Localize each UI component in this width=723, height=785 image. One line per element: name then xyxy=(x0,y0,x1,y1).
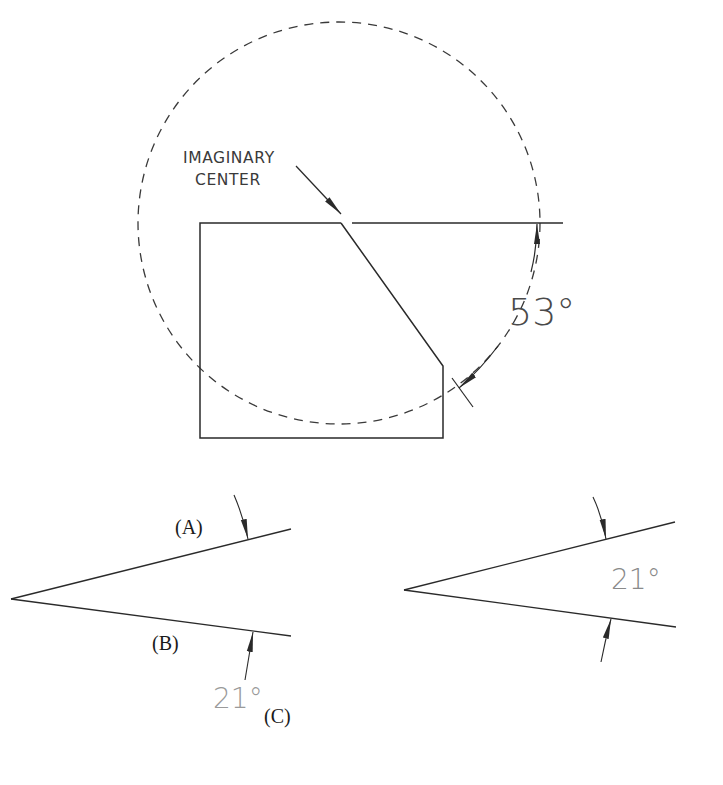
dimension-arrow-lower-right xyxy=(601,619,611,662)
label-c: (C) xyxy=(264,705,291,728)
diagram-canvas: IMAGINARY CENTER 53° (A) (B) 21° (C) 21° xyxy=(0,0,723,785)
leader-arrow-imaginary-center xyxy=(296,166,341,214)
bottom-left-figure: (A) (B) 21° (C) xyxy=(11,495,291,728)
angle-label-53: 53° xyxy=(508,290,575,334)
imaginary-label-line1: IMAGINARY xyxy=(183,149,275,167)
angle-label-21-right: 21° xyxy=(611,563,661,596)
top-figure: IMAGINARY CENTER 53° xyxy=(138,22,575,438)
bottom-right-figure: 21° xyxy=(404,497,676,662)
label-a: (A) xyxy=(175,516,203,539)
dimension-arc-upper xyxy=(531,224,537,272)
part-outline xyxy=(200,223,443,438)
angle-line-lower xyxy=(11,599,291,636)
dimension-arrow-upper-right xyxy=(593,497,606,539)
angle-label-21-left: 21° xyxy=(213,682,263,715)
dimension-arrow-c xyxy=(245,632,253,680)
angle-line-upper xyxy=(11,529,291,599)
imaginary-label-line2: CENTER xyxy=(195,171,261,189)
dimension-arrow-a xyxy=(234,495,248,539)
diagram-svg: IMAGINARY CENTER 53° (A) (B) 21° (C) 21° xyxy=(0,0,723,785)
label-b: (B) xyxy=(152,632,179,655)
